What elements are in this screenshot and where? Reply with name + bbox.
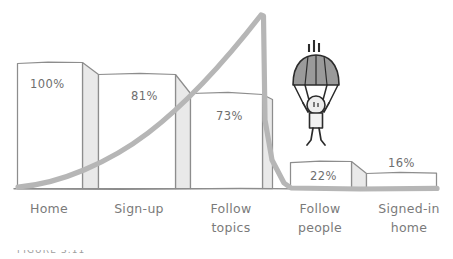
bar-face-follow-topics	[191, 92, 263, 188]
x-label-signed-in-home-line1: Signed-in	[378, 201, 440, 216]
funnel-chart-figure: 100% 81% 73% 22% 16%	[0, 0, 453, 259]
x-label-follow-people-line2: people	[298, 220, 342, 235]
x-label-home: Home	[30, 201, 68, 216]
parachutist-head	[307, 96, 325, 114]
x-label-signed-in-home-line2: home	[391, 220, 428, 235]
x-axis-labels: Home Sign-up Follow topics Follow people…	[30, 201, 440, 235]
x-label-follow-topics-line2: topics	[211, 220, 250, 235]
bar-value-follow-people: 22%	[310, 169, 337, 183]
x-label-follow-topics-line1: Follow	[210, 201, 251, 216]
x-label-signup: Sign-up	[114, 201, 164, 216]
bar-side-signup	[176, 75, 191, 189]
figure-caption-fragment: FIGURE 3.11	[17, 250, 112, 259]
bar-value-home: 100%	[30, 77, 64, 91]
parachutist-body	[310, 113, 323, 128]
bar-group-follow-people: 22%	[291, 161, 367, 188]
bar-group-signed-in-home: 16%	[367, 156, 437, 189]
figure-caption-text: FIGURE 3.11	[17, 250, 112, 255]
bar-side-follow-people	[352, 162, 367, 189]
parachuting-figure	[293, 40, 339, 145]
motion-marks-icon	[309, 40, 319, 52]
x-label-follow-people-line1: Follow	[299, 201, 340, 216]
bar-value-follow-topics: 73%	[216, 109, 243, 123]
chart-canvas: 100% 81% 73% 22% 16%	[0, 0, 453, 259]
bar-group-signup: 81%	[99, 73, 191, 188]
bar-value-signed-in-home: 16%	[388, 156, 415, 170]
bar-value-signup: 81%	[131, 89, 158, 103]
bar-group-follow-topics: 73%	[191, 92, 273, 188]
parachutist-legs	[307, 128, 325, 145]
